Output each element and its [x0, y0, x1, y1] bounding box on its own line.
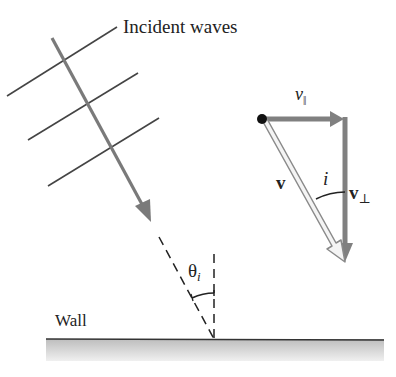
theta-subscript: i [197, 269, 201, 284]
velocity-parallel-subscript: || [303, 93, 305, 105]
velocity-perpendicular-symbol: v [349, 182, 359, 203]
incident-waves-label: Incident waves [123, 16, 237, 38]
origin-dot [257, 114, 267, 124]
velocity-arrow [260, 117, 345, 262]
velocity-perpendicular-label: v⊥ [349, 182, 371, 207]
theta-angle-arc [192, 293, 214, 298]
theta-symbol: θ [188, 260, 197, 281]
velocity-parallel-label: v|| [295, 84, 305, 105]
diagram-canvas: Incident waves Wall v|| v i v⊥ θi [0, 0, 396, 377]
velocity-parallel-arrow [262, 111, 344, 127]
arrowhead-icon [135, 199, 151, 222]
wavefront-lines [7, 27, 159, 186]
i-angle-arc [316, 192, 345, 199]
incidence-angle-label: θi [188, 260, 201, 285]
velocity-perpendicular-subscript: ⊥ [359, 191, 371, 206]
velocity-parallel-symbol: v [295, 84, 303, 104]
velocity-label: v [276, 172, 286, 194]
incident-ray-arrow [52, 38, 151, 222]
wavefront-2 [28, 73, 138, 140]
wavefront-1 [7, 27, 117, 96]
ray-dashed-extension [159, 237, 214, 339]
wall-edge [46, 339, 384, 340]
angle-i-label: i [323, 168, 328, 190]
wall-surface [46, 339, 384, 361]
wavefront-3 [48, 118, 159, 186]
wall-label: Wall [55, 311, 87, 331]
